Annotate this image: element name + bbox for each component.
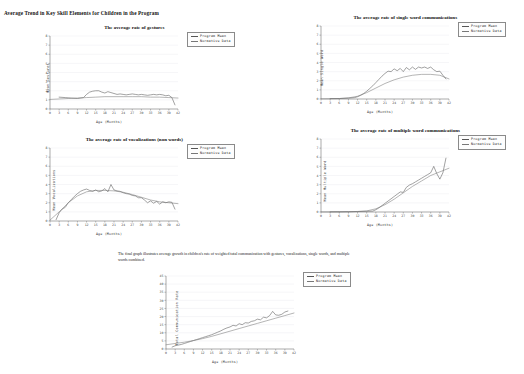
svg-text:0: 0 (165, 351, 167, 355)
svg-text:24: 24 (392, 214, 396, 218)
svg-text:39: 39 (167, 111, 171, 115)
svg-text:24: 24 (121, 223, 125, 227)
chart-title-multiple-word: The average rate of multiple word commun… (305, 128, 506, 133)
svg-text:5: 5 (316, 165, 318, 169)
svg-text:15: 15 (210, 351, 214, 355)
y-axis-label-single-word: Mean Single Word (320, 50, 324, 87)
svg-text:39: 39 (283, 351, 287, 355)
svg-text:6: 6 (316, 155, 318, 159)
svg-text:45: 45 (160, 274, 164, 278)
legend-line-normative-icon (462, 31, 469, 32)
legend-item-program: Program Mean (462, 25, 502, 28)
svg-text:12: 12 (85, 223, 89, 227)
legend-item-program: Program Mean (307, 275, 347, 278)
x-axis-label-vocalizations: Age (Months) (34, 232, 184, 236)
svg-text:42: 42 (176, 111, 180, 115)
legend-total-communication: Program Mean Normative Data (303, 272, 351, 287)
legend-line-program-icon (462, 26, 469, 27)
plot-area-total-communication: Total Communication Rate 051015202530354… (150, 272, 300, 364)
svg-text:15: 15 (94, 223, 98, 227)
svg-text:10: 10 (160, 331, 164, 335)
svg-text:42: 42 (447, 101, 451, 105)
x-axis-label-multiple-word: Age (Months) (305, 223, 455, 227)
legend-multiple-word: Program Mean Normative Data (458, 135, 506, 150)
svg-text:24: 24 (392, 101, 396, 105)
svg-text:33: 33 (420, 214, 424, 218)
svg-text:0: 0 (161, 347, 163, 351)
chart-title-single-word: The average rate of single word communic… (305, 15, 506, 20)
svg-text:42: 42 (292, 351, 296, 355)
svg-text:6: 6 (45, 164, 47, 168)
svg-text:18: 18 (374, 101, 378, 105)
svg-text:24: 24 (121, 111, 125, 115)
svg-text:12: 12 (85, 111, 89, 115)
svg-text:39: 39 (167, 223, 171, 227)
svg-text:33: 33 (149, 223, 153, 227)
svg-text:6: 6 (67, 111, 69, 115)
legend-item-program: Program Mean (191, 35, 231, 38)
legend-label-normative: Normative Data (200, 40, 231, 43)
svg-text:9: 9 (347, 214, 349, 218)
svg-text:8: 8 (316, 137, 318, 141)
svg-text:27: 27 (130, 111, 134, 115)
svg-text:42: 42 (176, 223, 180, 227)
chart-title-vocalizations: The average rate of vocalizations (non w… (34, 137, 235, 142)
x-axis-label-single-word: Age (Months) (305, 110, 455, 114)
svg-text:3: 3 (174, 351, 176, 355)
svg-text:0: 0 (45, 219, 47, 223)
svg-text:15: 15 (160, 323, 164, 327)
x-axis-label-total-communication: Age (Months) (150, 360, 300, 364)
svg-text:39: 39 (438, 101, 442, 105)
plot-area-vocalizations: Mean Vocalizations 012345678036912151821… (34, 144, 184, 236)
chart-panel-multiple-word: The average rate of multiple word commun… (305, 128, 506, 227)
svg-text:5: 5 (316, 52, 318, 56)
svg-text:6: 6 (183, 351, 185, 355)
legend-label-normative: Normative Data (471, 143, 502, 146)
svg-text:24: 24 (237, 351, 241, 355)
svg-text:5: 5 (45, 174, 47, 178)
svg-text:4: 4 (316, 61, 318, 65)
svg-text:2: 2 (316, 192, 318, 196)
legend-line-program-icon (191, 36, 198, 37)
legend-label-program: Program Mean (471, 138, 497, 141)
svg-text:15: 15 (365, 214, 369, 218)
page-title: Average Trend in Key Skill Elements for … (4, 10, 159, 16)
svg-text:30: 30 (411, 214, 415, 218)
x-axis-label-gestures: Age (Months) (34, 120, 184, 124)
svg-text:1: 1 (316, 201, 318, 205)
svg-text:40: 40 (160, 282, 164, 286)
svg-text:6: 6 (338, 214, 340, 218)
svg-text:0: 0 (316, 210, 318, 214)
svg-text:3: 3 (316, 70, 318, 74)
svg-text:6: 6 (316, 42, 318, 46)
svg-text:25: 25 (160, 307, 164, 311)
legend-item-program: Program Mean (191, 147, 231, 150)
svg-text:2: 2 (316, 79, 318, 83)
svg-text:27: 27 (401, 214, 405, 218)
svg-text:2: 2 (45, 201, 47, 205)
svg-text:15: 15 (94, 111, 98, 115)
legend-label-program: Program Mean (200, 35, 226, 38)
legend-label-program: Program Mean (200, 147, 226, 150)
svg-text:9: 9 (192, 351, 194, 355)
legend-item-program: Program Mean (462, 138, 502, 141)
svg-text:7: 7 (316, 33, 318, 37)
svg-text:1: 1 (45, 210, 47, 214)
chart-panel-total-communication: Total Communication Rate 051015202530354… (150, 272, 351, 364)
svg-text:7: 7 (45, 43, 47, 47)
chart-svg-vocalizations: 01234567803691215182124273033363942 (34, 144, 184, 232)
svg-text:33: 33 (149, 111, 153, 115)
svg-text:30: 30 (256, 351, 260, 355)
svg-text:8: 8 (45, 146, 47, 150)
svg-text:5: 5 (161, 339, 163, 343)
svg-text:30: 30 (140, 223, 144, 227)
svg-text:36: 36 (429, 214, 433, 218)
svg-text:39: 39 (438, 214, 442, 218)
chart-panel-gestures: The average rate of gestures Mean Gestur… (34, 25, 235, 124)
legend-line-normative-icon (191, 153, 198, 154)
legend-line-normative-icon (307, 281, 314, 282)
svg-text:12: 12 (356, 101, 360, 105)
chart-svg-multiple-word: 01234567803691215182124273033363942 (305, 135, 455, 223)
y-axis-label-gestures: Mean Gestures (46, 63, 50, 93)
legend-line-program-icon (191, 148, 198, 149)
